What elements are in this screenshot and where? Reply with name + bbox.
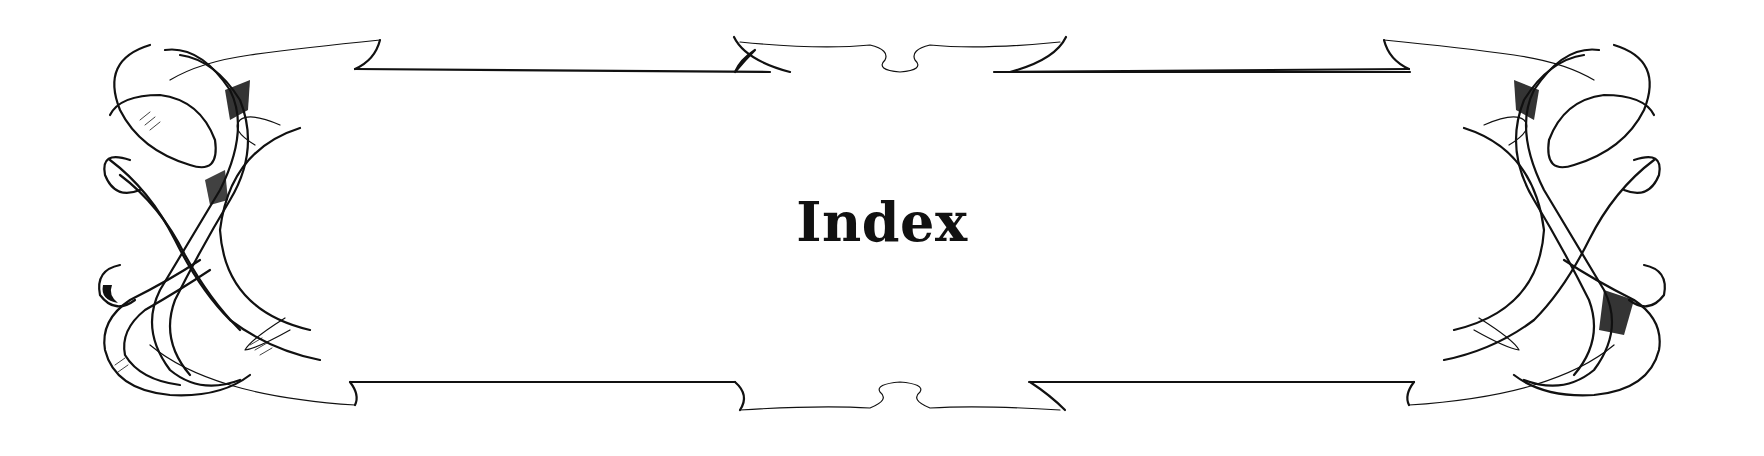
top-center-flourish-icon xyxy=(734,37,1410,72)
bottom-center-flourish-icon xyxy=(735,382,1414,410)
page-title: Index xyxy=(0,190,1764,254)
